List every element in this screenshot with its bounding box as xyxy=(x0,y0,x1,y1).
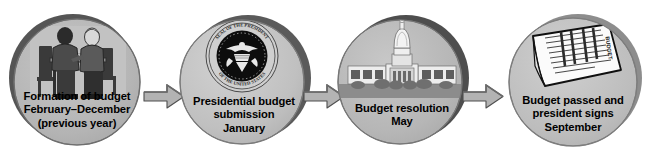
stage-4-graphic: BUDGET xyxy=(505,8,641,156)
arrow-right-icon xyxy=(462,84,504,110)
budget-process-diagram: Formation of budget February–December (p… xyxy=(0,0,651,164)
stage-1-graphic xyxy=(12,8,142,156)
stage-budget-resolution[interactable]: Budget resolution May xyxy=(338,8,466,156)
arrow-1 xyxy=(143,84,185,110)
arrow-3 xyxy=(462,84,504,110)
stage-3-graphic xyxy=(338,8,466,156)
stage-2-graphic: SEAL OF THE PRESIDENT OF THE UNITED STAT… xyxy=(180,8,308,156)
stage-formation-of-budget[interactable]: Formation of budget February–December (p… xyxy=(12,8,142,156)
two-people-at-table-icon xyxy=(30,26,126,99)
stage-budget-passed-president-signs[interactable]: BUDGET Budget passed and president signs… xyxy=(505,8,641,156)
presidential-seal-icon: SEAL OF THE PRESIDENT OF THE UNITED STAT… xyxy=(206,20,278,92)
stage-presidential-budget-submission[interactable]: SEAL OF THE PRESIDENT OF THE UNITED STAT… xyxy=(180,8,308,156)
arrow-right-icon xyxy=(143,84,185,110)
